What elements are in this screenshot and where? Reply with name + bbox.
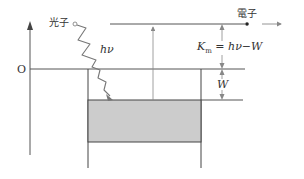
photon-wave [73, 22, 113, 101]
km-symbol: K [197, 40, 205, 53]
electron-dot [245, 22, 249, 26]
photon-energy-label: hν [100, 44, 114, 55]
origin-label: O [17, 64, 26, 75]
filled-band [88, 100, 201, 142]
km-subscript: m [205, 47, 212, 55]
energy-diagram [0, 0, 304, 179]
kinetic-energy-equation: Km = hν−W [196, 41, 263, 55]
photon-label: 光子 [49, 18, 69, 28]
energy-axis [27, 21, 33, 155]
work-function-label: W [217, 79, 228, 90]
km-rhs: = hν−W [212, 40, 263, 53]
electron-label: 電子 [237, 9, 257, 19]
